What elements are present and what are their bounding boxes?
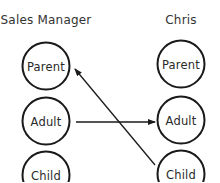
ego-state-label: Parent	[27, 59, 65, 73]
ego-state-label: Adult	[166, 113, 197, 127]
column-title-sales-manager: Sales Manager	[1, 13, 92, 27]
transaction-diagram: Sales Manager Chris Parent Adult Child P…	[0, 0, 220, 182]
sales-manager-child-circle: Child	[22, 151, 71, 183]
chris-child-circle: Child	[157, 150, 206, 183]
chris-adult-circle: Adult	[157, 96, 206, 145]
ego-state-label: Child	[166, 167, 196, 181]
child-to-parent-arrow	[75, 69, 155, 165]
sales-manager-parent-circle: Parent	[22, 42, 71, 91]
sales-manager-adult-circle: Adult	[22, 97, 71, 146]
column-title-chris: Chris	[165, 13, 197, 27]
ego-state-label: Child	[31, 168, 61, 182]
chris-parent-circle: Parent	[157, 40, 206, 89]
ego-state-label: Adult	[31, 114, 62, 128]
ego-state-label: Parent	[162, 57, 200, 71]
